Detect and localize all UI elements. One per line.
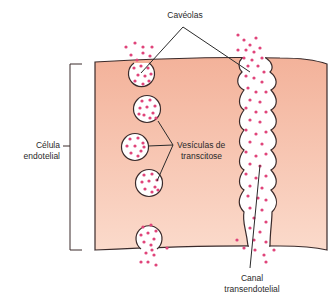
vesiculas-label-line2: transcitose <box>181 151 222 161</box>
cell-bracket <box>63 64 82 250</box>
caveolas-label: Cavéolas <box>155 10 215 20</box>
vesicle-2 <box>122 134 149 161</box>
vesiculas-label-line1: Vesículas de <box>177 140 225 150</box>
celula-label-line2: endotelial <box>4 151 60 161</box>
celula-label-line1: Célula <box>4 140 60 150</box>
canal-label-line1: Canal <box>222 273 282 283</box>
canal-label-line2: transendotelial <box>212 284 292 294</box>
vesicle-1 <box>134 96 161 123</box>
vesicle-3 <box>136 170 163 197</box>
